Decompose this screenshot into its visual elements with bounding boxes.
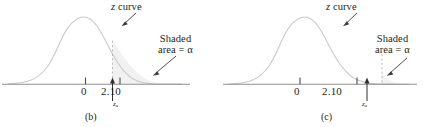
panel-c-graphic: [217, 0, 435, 127]
shaded-label-line1-b: Shaded: [158, 33, 193, 44]
z-curve-label-b: z curve: [111, 1, 142, 12]
z-curve-leader-b: [125, 13, 137, 24]
tick-label-zero-b: 0: [81, 86, 87, 98]
panel-b-graphic: [0, 0, 218, 127]
critical-value-label-c: zα: [362, 101, 367, 109]
tick-label-210-c: 2.10: [322, 86, 342, 98]
critical-value-subscript-c: α: [365, 103, 367, 108]
shaded-leader-c: [390, 58, 407, 73]
panel-label-c: (c): [321, 112, 332, 123]
z-curve-leader-c: [346, 13, 357, 24]
z-curve-figure: z curve Shaded area = α 0 2.10 zα (b): [0, 0, 435, 127]
shaded-label-line2-c: area = α: [375, 44, 410, 55]
z-alpha-pointer-head-c: [365, 78, 370, 84]
shaded-label-line2-b: area = α: [158, 44, 193, 55]
critical-value-subscript-b: α: [116, 103, 118, 108]
panel-c: z curve Shaded area = α 0 2.10 zα (c): [217, 0, 435, 127]
z-curve-arrowhead-c: [343, 21, 349, 26]
shaded-leader-b: [156, 56, 176, 73]
panel-b: z curve Shaded area = α 0 2.10 zα (b): [0, 0, 218, 127]
shaded-area-label-b: Shaded area = α: [158, 33, 193, 55]
shaded-area-c: [382, 74, 411, 85]
shaded-arrowhead-b: [153, 71, 160, 76]
z-curve-label-c: z curve: [326, 1, 357, 12]
shaded-label-line1-c: Shaded: [375, 33, 410, 44]
critical-value-label-b: zα: [113, 101, 118, 109]
tick-label-zero-c: 0: [294, 86, 300, 98]
panel-label-b: (b): [85, 112, 97, 123]
tick-label-210-b: 2.10: [101, 86, 121, 98]
shaded-area-label-c: Shaded area = α: [375, 33, 410, 55]
shaded-arrowhead-c: [387, 71, 394, 76]
